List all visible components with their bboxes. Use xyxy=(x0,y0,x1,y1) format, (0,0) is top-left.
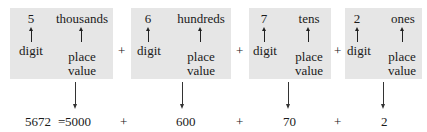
place-label: place xyxy=(62,50,102,63)
digit-label: digit xyxy=(131,44,167,57)
arrow-up-icon xyxy=(31,30,32,42)
place-value-box-hundreds: 6 hundreds digit place value xyxy=(131,8,231,79)
digit-label: digit xyxy=(249,44,281,57)
term-thousands: 5000 xyxy=(65,115,91,128)
arrow-up-icon xyxy=(308,30,309,42)
plus-sign: + xyxy=(236,44,243,57)
arrow-down-icon xyxy=(75,82,76,106)
digit-label: digit xyxy=(345,44,373,57)
digit-value: 7 xyxy=(254,12,274,25)
plus-sign: + xyxy=(334,115,341,128)
place-label: place xyxy=(289,50,329,63)
place-name: tens xyxy=(291,12,327,25)
digit-value: 6 xyxy=(138,12,158,25)
value-label: value xyxy=(62,64,102,77)
place-name: thousands xyxy=(52,12,112,25)
arrow-up-icon xyxy=(264,30,265,42)
term-hundreds: 600 xyxy=(176,115,196,128)
arrow-down-icon xyxy=(383,82,384,106)
value-label: value xyxy=(289,64,329,77)
value-label: value xyxy=(382,64,422,77)
plus-sign: + xyxy=(334,44,341,57)
arrow-up-icon xyxy=(402,30,403,42)
place-value-box-ones: 2 ones digit place value xyxy=(345,8,422,79)
digit-value: 5 xyxy=(21,12,41,25)
term-ones: 2 xyxy=(381,115,388,128)
digit-value: 2 xyxy=(347,12,367,25)
arrow-up-icon xyxy=(357,30,358,42)
arrow-up-icon xyxy=(200,30,201,42)
arrow-down-icon xyxy=(182,82,183,106)
original-number: 5672 xyxy=(25,115,51,128)
plus-sign: + xyxy=(236,115,243,128)
arrow-up-icon xyxy=(148,30,149,42)
place-value-box-tens: 7 tens digit place value xyxy=(249,8,331,79)
arrow-up-icon xyxy=(81,30,82,42)
term-tens: 70 xyxy=(283,115,296,128)
plus-sign: + xyxy=(120,115,127,128)
plus-sign: + xyxy=(118,44,125,57)
value-label: value xyxy=(181,64,221,77)
place-name: hundreds xyxy=(173,12,229,25)
digit-label: digit xyxy=(10,44,52,57)
arrow-down-icon xyxy=(288,82,289,106)
place-name: ones xyxy=(385,12,421,25)
place-label: place xyxy=(181,50,221,63)
place-label: place xyxy=(382,50,422,63)
place-value-box-thousands: 5 thousands digit place value xyxy=(10,8,113,79)
